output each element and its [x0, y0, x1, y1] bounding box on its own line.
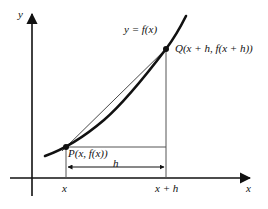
x-plus-h-tick-label: x + h	[155, 183, 178, 194]
point-q-label: Q(x + h, f(x + h))	[175, 43, 253, 54]
y-axis-label: y	[18, 9, 23, 20]
point-q-marker	[163, 46, 169, 52]
function-curve	[45, 16, 186, 156]
x-tick-label: x	[62, 183, 67, 194]
point-p-label: P(x, f(x))	[68, 148, 108, 159]
secant-line-pq	[62, 46, 169, 151]
calculus-secant-figure: y x y = f(x) Q(x + h, f(x + h)) P(x, f(x…	[0, 0, 268, 209]
function-label: y = f(x)	[124, 24, 157, 35]
interval-h-label: h	[113, 158, 119, 169]
x-axis-label: x	[246, 183, 251, 194]
